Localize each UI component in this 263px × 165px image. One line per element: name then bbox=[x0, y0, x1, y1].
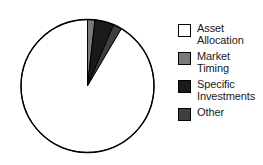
pie-plot-area bbox=[0, 0, 172, 165]
legend-label-specific-investments: Specific Investments bbox=[197, 79, 255, 102]
pie-chart-figure: Asset Allocation Market Timing Specific … bbox=[0, 0, 263, 165]
legend-swatch-other bbox=[178, 108, 191, 121]
legend-swatch-asset-allocation bbox=[178, 24, 191, 37]
legend-item-market-timing[interactable]: Market Timing bbox=[178, 51, 263, 74]
pie-svg bbox=[0, 0, 172, 165]
legend-label-other: Other bbox=[197, 107, 224, 119]
legend-item-other[interactable]: Other bbox=[178, 107, 263, 121]
legend-item-specific-investments[interactable]: Specific Investments bbox=[178, 79, 263, 102]
legend-label-market-timing: Market Timing bbox=[197, 51, 230, 74]
legend-swatch-specific-investments bbox=[178, 80, 191, 93]
legend-item-asset-allocation[interactable]: Asset Allocation bbox=[178, 23, 263, 46]
legend-swatch-market-timing bbox=[178, 52, 191, 65]
legend-label-asset-allocation: Asset Allocation bbox=[197, 23, 244, 46]
chart-legend: Asset Allocation Market Timing Specific … bbox=[178, 23, 263, 126]
